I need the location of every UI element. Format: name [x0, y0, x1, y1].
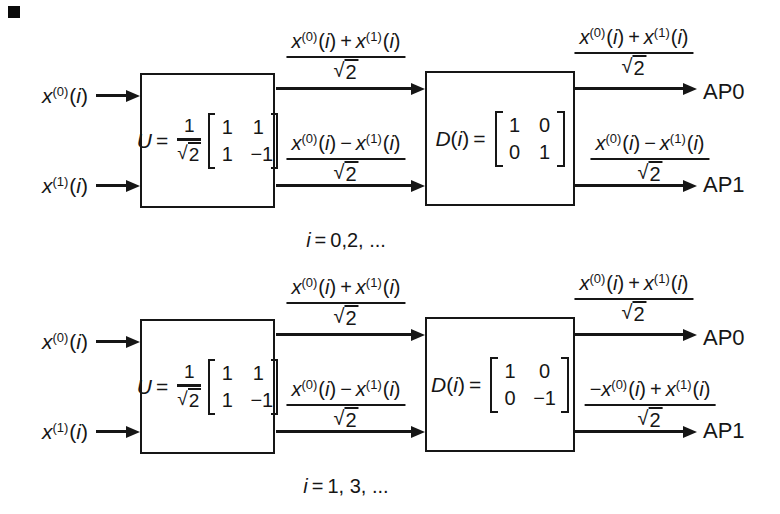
arrowhead-icon	[411, 83, 425, 95]
fraction-bar	[590, 158, 709, 160]
d-matrix: 1001	[495, 111, 565, 167]
input-line-x0	[96, 340, 129, 343]
fraction-numerator: −x(0)(i)+x(1)(i)	[585, 378, 716, 403]
fraction-numerator: x(0)(i)+x(1)(i)	[574, 272, 693, 297]
arrowhead-icon	[126, 180, 140, 192]
fraction-bar	[177, 138, 201, 140]
wire-u-to-d-top	[276, 87, 414, 90]
fraction-bar	[177, 384, 201, 386]
bracket-right	[271, 113, 278, 169]
output-line-ap0	[574, 87, 686, 90]
fraction-bar	[574, 52, 693, 54]
input-label-x0: x(0)(i)	[20, 83, 88, 111]
fraction-numerator: x(0)(i)−x(1)(i)	[286, 378, 405, 403]
bracket-right	[271, 359, 278, 415]
arrowhead-icon	[411, 426, 425, 438]
fraction-numerator: x(0)(i)+x(1)(i)	[286, 30, 405, 55]
sqrt-2: √2	[621, 55, 646, 79]
matrix-cells: 111−1	[215, 113, 271, 169]
sqrt-2: √2	[333, 407, 358, 431]
d-formula: D(i)= 1001	[435, 111, 564, 167]
wire-u-to-d-top	[276, 333, 414, 336]
d-formula: D(i)= 100−1	[431, 357, 569, 413]
input-label-x0: x(0)(i)	[20, 329, 88, 357]
input-label-x1: x(1)(i)	[20, 419, 88, 447]
diagram-odd-samples: x(0)(i) x(1)(i) U= 1 √2 111−1 x(0)(i)+x(…	[0, 246, 780, 499]
fraction-numerator: x(0)(i)+x(1)(i)	[574, 26, 693, 51]
output-port-ap1: AP1	[703, 419, 745, 443]
input-label-x1: x(1)(i)	[20, 173, 88, 201]
bracket-left	[495, 111, 503, 167]
input-line-x0	[96, 94, 129, 97]
input-line-x1	[96, 430, 129, 433]
coefficient-fraction: 1 √2	[177, 115, 201, 165]
bracket-right	[557, 111, 565, 167]
fraction-bar	[286, 56, 405, 58]
u-formula: U= 1 √2 111−1	[137, 359, 278, 415]
u-equals-label: U=	[137, 375, 172, 399]
coefficient-fraction: 1 √2	[177, 361, 201, 411]
diagram-even-samples: x(0)(i) x(1)(i) U= 1 √2 111−1 x(0)(i)+x(…	[0, 0, 780, 253]
fraction-bar	[585, 404, 716, 406]
fraction-numerator: x(0)(i)−x(1)(i)	[286, 132, 405, 157]
signal-fraction-out-top: x(0)(i)+x(1)(i) √2	[574, 26, 693, 79]
arrowhead-icon	[126, 90, 140, 102]
d-equals-label: D(i)=	[435, 127, 489, 151]
arrowhead-icon	[126, 426, 140, 438]
sqrt-2: √2	[637, 407, 662, 431]
input-line-x1	[96, 184, 129, 187]
matrix-cells: 1001	[503, 111, 557, 167]
output-line-ap0	[574, 333, 686, 336]
u-transform-block: U= 1 √2 111−1	[140, 73, 275, 208]
output-port-ap1: AP1	[703, 173, 745, 197]
bracket-right	[561, 357, 569, 413]
matrix-cells: 100−1	[498, 357, 561, 413]
signal-fraction-out-bottom: x(0)(i)−x(1)(i) √2	[590, 132, 709, 185]
sqrt-2: √2	[177, 142, 201, 166]
sqrt-2: √2	[621, 301, 646, 325]
arrowhead-icon	[411, 329, 425, 341]
arrowhead-icon	[683, 329, 697, 341]
arrowhead-icon	[411, 180, 425, 192]
sqrt-2: √2	[177, 388, 201, 412]
fraction-bar	[286, 404, 405, 406]
output-port-ap0: AP0	[703, 326, 745, 350]
sqrt-2: √2	[333, 59, 358, 83]
fraction-bar	[286, 302, 405, 304]
signal-fraction-mid-top: x(0)(i)+x(1)(i) √2	[286, 276, 405, 329]
fraction-numerator: 1	[184, 115, 195, 137]
output-port-ap0: AP0	[703, 80, 745, 104]
figure-page: { "colors": { "ink": "#161616", "bg": "#…	[0, 0, 780, 514]
d-rotation-block: D(i)= 1001	[425, 71, 575, 206]
u-formula: U= 1 √2 111−1	[137, 113, 278, 169]
d-matrix: 100−1	[490, 357, 569, 413]
matrix-cells: 111−1	[215, 359, 271, 415]
u-matrix: 111−1	[208, 113, 278, 169]
signal-fraction-out-top: x(0)(i)+x(1)(i) √2	[574, 272, 693, 325]
fraction-numerator: x(0)(i)+x(1)(i)	[286, 276, 405, 301]
bracket-left	[490, 357, 498, 413]
fraction-bar	[574, 298, 693, 300]
signal-fraction-mid-bottom: x(0)(i)−x(1)(i) √2	[286, 378, 405, 431]
signal-fraction-mid-bottom: x(0)(i)−x(1)(i) √2	[286, 132, 405, 185]
signal-fraction-mid-top: x(0)(i)+x(1)(i) √2	[286, 30, 405, 83]
arrowhead-icon	[126, 336, 140, 348]
u-equals-label: U=	[137, 129, 172, 153]
d-equals-label: D(i)=	[431, 373, 485, 397]
sqrt-2: √2	[637, 161, 662, 185]
u-matrix: 111−1	[208, 359, 278, 415]
fraction-numerator: x(0)(i)−x(1)(i)	[590, 132, 709, 157]
bracket-left	[208, 359, 215, 415]
sqrt-2: √2	[333, 305, 358, 329]
fraction-bar	[286, 158, 405, 160]
sqrt-2: √2	[333, 161, 358, 185]
bracket-left	[208, 113, 215, 169]
arrowhead-icon	[683, 83, 697, 95]
fraction-numerator: 1	[184, 361, 195, 383]
u-transform-block: U= 1 √2 111−1	[140, 319, 275, 454]
index-caption-odd: i=1, 3, ...	[303, 474, 388, 498]
d-rotation-block: D(i)= 100−1	[425, 317, 575, 452]
signal-fraction-out-bottom: −x(0)(i)+x(1)(i) √2	[585, 378, 716, 431]
